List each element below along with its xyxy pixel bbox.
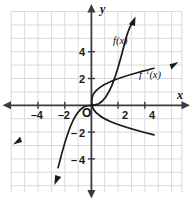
y-tick-minus-neg2: – [71, 128, 77, 139]
f-inverse-arg: (x) [149, 69, 161, 80]
graph-screenshot: y x O –4 –2 2 4 4 2 2 4 – – f(x) f−1(x) [0, 0, 195, 199]
coordinate-plane-graph [0, 0, 195, 199]
x-tick-label-pos2: 2 [122, 110, 128, 121]
x-axis-label: x [177, 89, 183, 101]
y-tick-minus-neg4: – [71, 155, 77, 166]
grid-lines [11, 12, 182, 193]
curve-label-fx: f(x) [113, 36, 128, 47]
y-tick-label-pos4: 4 [79, 47, 85, 58]
y-tick-label-neg2: 2 [79, 128, 85, 139]
x-tick-label-pos4: 4 [149, 110, 155, 121]
y-tick-label-neg4: 4 [79, 155, 85, 166]
origin-label: O [82, 107, 91, 119]
curve-label-f-inverse: f−1(x) [139, 70, 161, 81]
y-axis-label: y [100, 3, 105, 15]
x-tick-label-neg2: –2 [58, 110, 70, 121]
y-tick-label-pos2: 2 [79, 74, 85, 85]
x-tick-label-neg4: –4 [31, 110, 43, 121]
